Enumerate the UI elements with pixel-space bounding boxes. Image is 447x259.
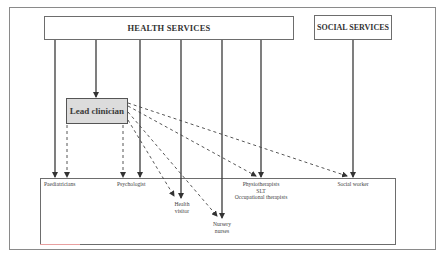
solid-arrows [55, 40, 353, 218]
lead-clinician-box: Lead clinician [66, 98, 128, 124]
diagram-canvas: HEALTH SERVICES SOCIAL SERVICES [0, 0, 447, 259]
dashed-lead-to-social-worker [128, 103, 347, 176]
dashed-lead-to-therapists [128, 106, 256, 176]
label-nursery-nurses: Nursery nurses [211, 221, 233, 234]
label-paediatricians: Paediatricians [44, 181, 75, 188]
label-therapists: Physiotherapists SLT Occupational therap… [231, 181, 291, 201]
label-social-worker: Social worker [336, 181, 370, 188]
lead-clinician-label: Lead clinician [70, 106, 124, 116]
label-psychologist: Psychologist [117, 181, 146, 188]
label-health-visitor: Health visitor [172, 201, 192, 214]
